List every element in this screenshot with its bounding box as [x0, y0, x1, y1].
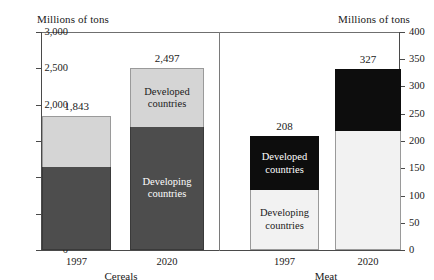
segment-cereals-1997-developing	[42, 167, 111, 250]
segment-label-meat-1997-developing: Developing countries	[260, 207, 309, 231]
category-label-meat-2020: 2020	[335, 256, 401, 267]
segment-label-cereals-2020-developed: Developed countries	[144, 86, 189, 110]
bar-total-meat-2020: 327	[335, 53, 401, 65]
right-tick-label-50: 50	[409, 218, 420, 229]
panel-divider-line	[219, 32, 220, 251]
right-tick-400	[399, 32, 405, 33]
chart-figure: Millions of tons Millions of tons 3,000 …	[0, 0, 434, 280]
right-tick-label-250: 250	[409, 109, 425, 120]
bar-cereals-2020: Developed countries Developing countries	[130, 68, 204, 250]
bar-total-cereals-1997: 1,843	[42, 100, 111, 112]
plot-top-rule	[41, 32, 400, 33]
left-tick-label-3000: 3,000	[36, 27, 68, 38]
segment-cereals-1997-developed	[42, 116, 111, 167]
segment-meat-1997-developing: Developing countries	[250, 190, 319, 250]
group-label-meat: Meat	[250, 270, 402, 280]
right-tick-0	[399, 250, 405, 251]
segment-cereals-2020-developing: Developing countries	[130, 127, 204, 250]
left-axis-title: Millions of tons	[37, 13, 109, 25]
right-axis-title: Millions of tons	[338, 13, 410, 25]
right-tick-label-100: 100	[409, 191, 425, 202]
group-label-cereals: Cereals	[41, 270, 201, 280]
bar-cereals-1997	[42, 116, 111, 250]
bar-total-meat-1997: 208	[250, 120, 319, 132]
category-label-cereals-1997: 1997	[42, 256, 111, 267]
category-label-cereals-2020: 2020	[130, 256, 204, 267]
segment-label-cereals-2020-developing: Developing countries	[143, 176, 192, 200]
right-tick-label-150: 150	[409, 163, 425, 174]
segment-meat-2020-developing	[335, 131, 401, 250]
left-tick-label-2500: 2,500	[36, 63, 68, 74]
x-axis-baseline	[41, 250, 400, 251]
bar-total-cereals-2020: 2,497	[130, 52, 204, 64]
segment-label-meat-1997-developed: Developed countries	[262, 151, 307, 175]
category-label-meat-1997: 1997	[250, 256, 319, 267]
right-tick-label-350: 350	[409, 54, 425, 65]
bar-meat-2020	[335, 69, 401, 250]
segment-meat-1997-developed: Developed countries	[250, 136, 319, 190]
right-tick-label-400: 400	[409, 27, 425, 38]
right-tick-label-200: 200	[409, 136, 425, 147]
right-tick-label-0: 0	[409, 245, 414, 256]
segment-cereals-2020-developed: Developed countries	[130, 68, 204, 127]
right-tick-label-300: 300	[409, 81, 425, 92]
bar-meat-1997: Developed countries Developing countries	[250, 136, 319, 250]
segment-meat-2020-developed	[335, 69, 401, 131]
